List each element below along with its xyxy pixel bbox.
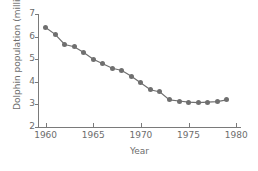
plot-area: [38, 14, 240, 127]
data-point: [177, 99, 182, 104]
data-point: [215, 99, 220, 104]
x-tick-label-1970: 1970: [124, 131, 158, 140]
x-axis-title: Year: [38, 146, 241, 156]
y-tick-label-5: 5: [21, 54, 35, 63]
x-tick-label-1980: 1980: [219, 131, 253, 140]
y-tick-label-3: 3: [21, 99, 35, 108]
data-point: [110, 66, 115, 71]
y-tick-label-2: 2: [21, 122, 35, 131]
chart-figure: 234567 19601965197019751980 Dolphin popu…: [0, 0, 258, 171]
series-line: [38, 14, 240, 127]
y-tick-2: [35, 127, 38, 128]
data-point: [91, 57, 96, 62]
data-point: [186, 100, 191, 105]
x-tick-label-1975: 1975: [172, 131, 206, 140]
data-point: [205, 100, 210, 105]
x-tick-label-1965: 1965: [76, 131, 110, 140]
data-point: [72, 44, 77, 49]
y-tick-label-7: 7: [21, 9, 35, 18]
data-point: [53, 32, 58, 37]
data-point: [129, 74, 134, 79]
y-tick-label-4: 4: [21, 77, 35, 86]
y-tick-label-6: 6: [21, 32, 35, 41]
x-tick-label-1960: 1960: [29, 131, 63, 140]
data-point: [196, 100, 201, 105]
y-axis-title: Dolphin population (millions): [12, 0, 22, 110]
x-axis-line: [38, 127, 241, 128]
